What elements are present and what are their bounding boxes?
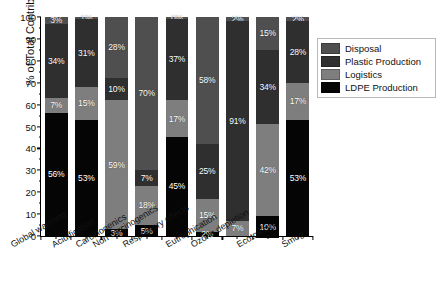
- legend-swatch: [321, 56, 340, 67]
- legend-item[interactable]: LDPE Production: [321, 81, 432, 94]
- figure-container: % of Total Contribution 0102030405060708…: [0, 0, 438, 302]
- x-axis-ticks-layer: [41, 17, 313, 236]
- x-axis-labels: Global warmingAcidificationCarcinogenics…: [40, 239, 313, 299]
- plot-area: 0102030405060708090100 3%34%7%56%1%31%15…: [40, 17, 313, 237]
- y-axis-tick-label: 30: [7, 165, 41, 176]
- legend-swatch: [321, 82, 340, 93]
- y-axis-tick-label: 60: [7, 99, 41, 110]
- legend-label: Disposal: [345, 44, 381, 54]
- legend-label: Logistics: [345, 70, 382, 80]
- legend-label: LDPE Production: [345, 83, 418, 93]
- y-axis-tick-label: 100: [7, 12, 41, 23]
- y-axis-tick-label: 70: [7, 77, 41, 88]
- legend-label: Plastic Production: [345, 57, 421, 67]
- y-axis-tick-label: 80: [7, 55, 41, 66]
- legend-item[interactable]: Plastic Production: [321, 55, 432, 68]
- y-axis-tick-label: 50: [7, 121, 41, 132]
- legend-item[interactable]: Disposal: [321, 42, 432, 55]
- legend-item[interactable]: Logistics: [321, 68, 432, 81]
- legend-swatch: [321, 69, 340, 80]
- y-axis-tick-label: 20: [7, 187, 41, 198]
- y-axis-tick-label: 40: [7, 143, 41, 154]
- legend-swatch: [321, 43, 340, 54]
- y-axis-tick-label: 10: [7, 209, 41, 220]
- legend-box: DisposalPlastic ProductionLogisticsLDPE …: [317, 38, 436, 98]
- y-axis-tick-label: 90: [7, 33, 41, 44]
